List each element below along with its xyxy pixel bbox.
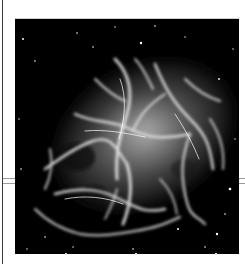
bottom-edge-marks bbox=[15, 253, 239, 256]
left-rule bbox=[2, 0, 3, 264]
clipped-caption bbox=[16, 0, 106, 3]
split-rule-right bbox=[239, 178, 245, 184]
nebula-image bbox=[15, 18, 239, 254]
nebula-graphic bbox=[15, 19, 239, 254]
split-rule-left bbox=[3, 178, 15, 184]
